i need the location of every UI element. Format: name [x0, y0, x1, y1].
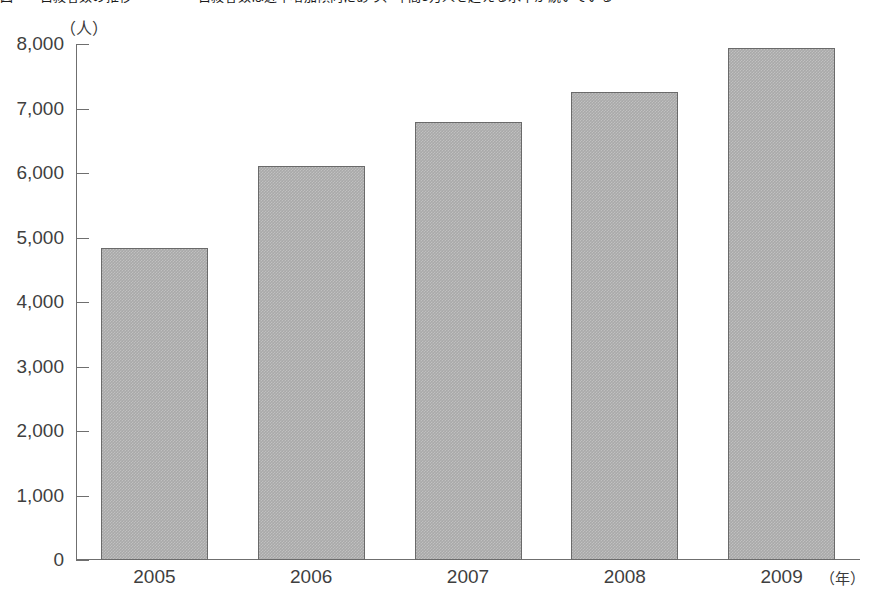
y-axis-tick-mark: [76, 560, 89, 561]
y-axis-tick-label: 4,000: [0, 291, 64, 313]
x-axis-category-label: 2005: [76, 566, 233, 588]
bar: [415, 122, 522, 560]
y-axis-tick-mark: [76, 496, 89, 497]
bar: [728, 48, 835, 560]
y-axis-tick-mark: [76, 44, 89, 45]
y-axis-tick-mark: [76, 431, 89, 432]
x-axis-category-label: 2006: [233, 566, 390, 588]
bar-chart: （人） （年） 01,0002,0003,0004,0005,0006,0007…: [0, 0, 869, 598]
bar: [571, 92, 678, 560]
bar: [258, 166, 365, 560]
y-axis-tick-label: 0: [0, 549, 64, 571]
y-axis-tick-label: 6,000: [0, 162, 64, 184]
y-axis-tick-mark: [76, 109, 89, 110]
y-axis-tick-label: 7,000: [0, 98, 64, 120]
y-axis-tick-label: 8,000: [0, 33, 64, 55]
y-axis-tick-mark: [76, 238, 89, 239]
y-axis-tick-label: 1,000: [0, 485, 64, 507]
y-axis-tick-label: 5,000: [0, 227, 64, 249]
y-axis-tick-mark: [76, 173, 89, 174]
y-axis-unit-label: （人）: [60, 15, 108, 39]
x-axis-category-label: 2009: [703, 566, 860, 588]
x-axis-category-label: 2007: [390, 566, 547, 588]
y-axis-tick-label: 2,000: [0, 420, 64, 442]
y-axis-tick-mark: [76, 302, 89, 303]
bar: [101, 248, 208, 560]
y-axis-tick-label: 3,000: [0, 356, 64, 378]
x-axis-category-label: 2008: [546, 566, 703, 588]
y-axis-tick-mark: [76, 367, 89, 368]
